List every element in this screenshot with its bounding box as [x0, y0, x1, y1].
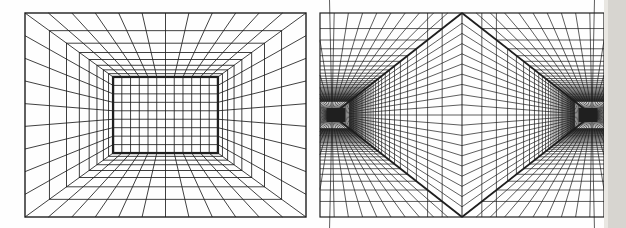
two-point-perspective-panel [320, 0, 604, 228]
one-point-perspective-panel [25, 13, 306, 217]
figure-canvas [0, 0, 626, 228]
scanned-figure [0, 0, 626, 228]
page-edge-shadow [604, 0, 626, 228]
